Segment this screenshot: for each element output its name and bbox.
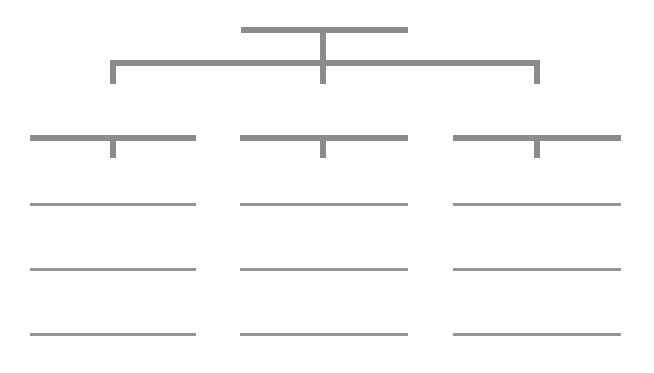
branch-stub [110, 138, 116, 158]
branch-bus [110, 60, 540, 66]
root-connector [320, 30, 326, 84]
list-item-line [240, 203, 408, 206]
list-item-line [453, 203, 621, 206]
list-item-line [30, 333, 196, 336]
branch-stub [534, 138, 540, 158]
list-item-line [453, 333, 621, 336]
list-item-line [240, 268, 408, 271]
list-item-line [30, 268, 196, 271]
branch-drop-left [110, 60, 116, 84]
branch-drop-right [534, 60, 540, 84]
branch-stub [320, 138, 326, 158]
list-item-line [240, 333, 408, 336]
list-item-line [30, 203, 196, 206]
list-item-line [453, 268, 621, 271]
